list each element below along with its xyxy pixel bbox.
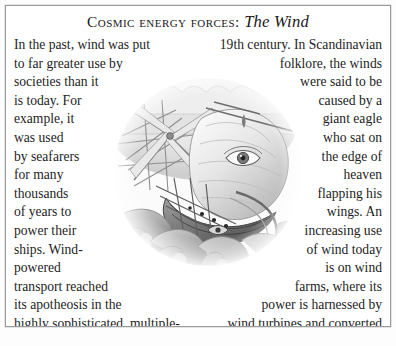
page-title-main: Cosmic energy forces: [87, 13, 240, 30]
text-line: heaven [220, 166, 382, 185]
left-text-column: In the past, wind was put to far greater… [14, 36, 180, 326]
text-line: wind turbines and converted [220, 315, 382, 326]
text-line: giant eagle [220, 110, 382, 129]
text-line: flapping his [220, 185, 382, 204]
text-line: of wind today [220, 241, 382, 260]
text-line: wings. An [220, 203, 382, 222]
text-line: 19th century. In Scandinavian [220, 36, 382, 55]
text-line: is on wind [220, 259, 382, 278]
text-line: transport reached [14, 278, 180, 297]
article-body: In the past, wind was put to far greater… [6, 36, 390, 326]
text-line: powered [14, 259, 180, 278]
text-line: by seafarers [14, 148, 180, 167]
text-line: thousands [14, 185, 180, 204]
text-line: was used [14, 129, 180, 148]
text-line: farms, where its [220, 278, 382, 297]
text-line: is today. For [14, 92, 180, 111]
text-line: power their [14, 222, 180, 241]
page-frame: Cosmic energy forces: The Wind [5, 5, 391, 327]
text-line: power is harnessed by [220, 296, 382, 315]
text-line: highly sophisticated, multiple- [14, 315, 180, 326]
text-line: ships. Wind- [14, 241, 180, 260]
right-text-column: 19th century. In Scandinavian folklore, … [220, 36, 382, 326]
text-line: the edge of [220, 148, 382, 167]
text-line: for many [14, 166, 180, 185]
text-line: increasing use [220, 222, 382, 241]
text-line: were said to be [220, 73, 382, 92]
text-line: to far greater use by [14, 55, 180, 74]
text-line: caused by a [220, 92, 382, 111]
text-line: folklore, the winds [220, 55, 382, 74]
page-frame-inner: Cosmic energy forces: The Wind [6, 6, 390, 326]
page-title-subject: The Wind [240, 12, 309, 31]
text-line: In the past, wind was put [14, 36, 180, 55]
text-line: its apotheosis in the [14, 296, 180, 315]
page-title: Cosmic energy forces: The Wind [6, 12, 390, 32]
text-line: of years to [14, 203, 180, 222]
text-line: societies than it [14, 73, 180, 92]
text-line: example, it [14, 110, 180, 129]
text-line: who sat on [220, 129, 382, 148]
page-root: Cosmic energy forces: The Wind [0, 0, 396, 346]
